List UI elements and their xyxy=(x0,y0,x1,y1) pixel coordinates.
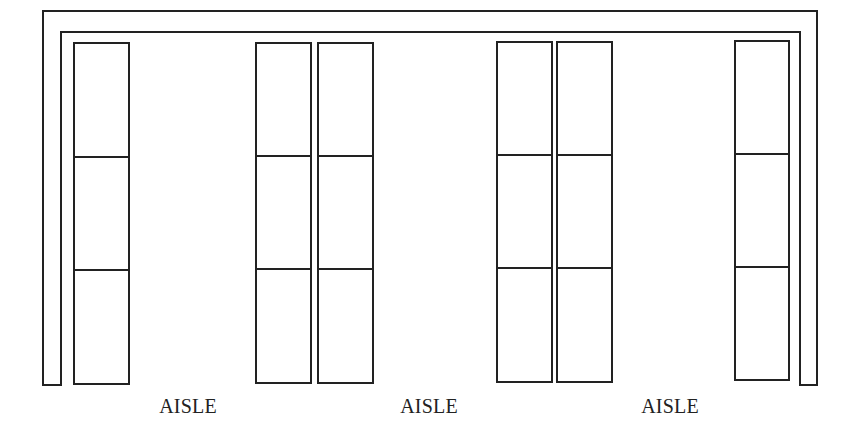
shelf-unit-e xyxy=(557,42,612,382)
shelf-bin xyxy=(557,155,612,268)
shelf-unit-d xyxy=(497,42,552,382)
shelf-unit-b xyxy=(256,43,311,383)
shelf-unit-c xyxy=(318,43,373,383)
outer-wall xyxy=(43,11,817,385)
shelf-bin xyxy=(735,41,789,154)
shelf-bin xyxy=(497,155,552,268)
shelf-bin xyxy=(318,269,373,383)
shelf-unit-a xyxy=(74,43,129,384)
shelf-bin xyxy=(497,268,552,382)
shelf-bin xyxy=(497,42,552,155)
aisle-label-1: AISLE xyxy=(159,395,217,418)
shelf-units xyxy=(74,41,789,384)
shelf-unit-f xyxy=(735,41,789,380)
shelf-bin xyxy=(74,157,129,270)
shelf-bin xyxy=(318,43,373,156)
shelf-bin xyxy=(735,267,789,380)
shelf-bin xyxy=(74,270,129,384)
shelf-bin xyxy=(256,269,311,383)
aisle-label-2: AISLE xyxy=(400,395,458,418)
shelf-bin xyxy=(735,154,789,267)
shelf-bin xyxy=(74,43,129,157)
shelf-bin xyxy=(318,156,373,269)
warehouse-floor-plan xyxy=(0,0,865,430)
shelf-bin xyxy=(557,42,612,155)
shelf-bin xyxy=(256,156,311,269)
shelf-bin xyxy=(557,268,612,382)
aisle-label-3: AISLE xyxy=(641,395,699,418)
shelf-bin xyxy=(256,43,311,156)
